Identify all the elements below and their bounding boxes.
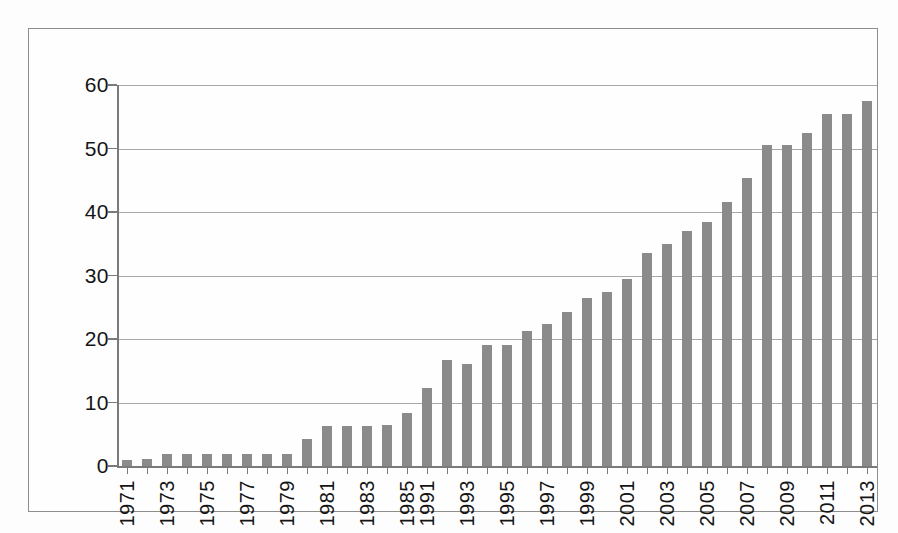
y-tick-label: 60 [85, 73, 109, 97]
bar [542, 324, 552, 466]
y-tick-mark [108, 148, 117, 150]
bar [282, 454, 292, 466]
x-tick-label: 1971 [117, 480, 137, 527]
bar [482, 345, 492, 466]
bar [302, 439, 312, 466]
bar [382, 425, 392, 466]
bar [622, 279, 632, 466]
x-tick-label: 1995 [497, 480, 517, 527]
x-tick-mark [467, 466, 468, 474]
x-tick-label: 2001 [617, 480, 637, 527]
bar [362, 426, 372, 466]
x-tick-mark [587, 466, 588, 474]
x-tick-mark [187, 466, 188, 474]
x-axis-spine [117, 466, 877, 468]
x-tick-label: 2005 [697, 480, 717, 527]
bar [662, 244, 672, 466]
bar-series [117, 85, 877, 466]
x-tick-label: 1973 [157, 480, 177, 527]
bar [182, 454, 192, 466]
x-tick-label: 2009 [777, 480, 797, 527]
bar [222, 454, 232, 466]
y-tick-mark [108, 275, 117, 277]
x-tick-mark [547, 466, 548, 474]
bar [742, 178, 752, 466]
x-tick-label: 1999 [577, 480, 597, 527]
x-tick-mark [867, 466, 868, 474]
y-tick-mark [108, 211, 117, 213]
x-tick-mark [647, 466, 648, 474]
x-tick-mark [827, 466, 828, 474]
bar [162, 454, 172, 466]
x-tick-label: 1983 [357, 480, 377, 527]
x-tick-label: 2011 [817, 480, 837, 525]
bar [602, 292, 612, 466]
x-tick-mark [427, 466, 428, 474]
x-tick-mark [747, 466, 748, 474]
bar [262, 454, 272, 466]
bar [202, 454, 212, 466]
x-tick-mark [407, 466, 408, 474]
x-tick-mark [307, 466, 308, 474]
bar [762, 145, 772, 466]
bar [582, 298, 592, 466]
x-tick-mark [287, 466, 288, 474]
x-tick-mark [387, 466, 388, 474]
x-tick-mark [267, 466, 268, 474]
bar [322, 426, 332, 466]
x-tick-mark [787, 466, 788, 474]
bar [442, 360, 452, 466]
y-tick-mark [108, 84, 117, 86]
y-tick-mark [108, 402, 117, 404]
y-tick-mark [108, 338, 117, 340]
bar [562, 312, 572, 466]
x-tick-mark [247, 466, 248, 474]
x-tick-mark [507, 466, 508, 474]
x-tick-mark [627, 466, 628, 474]
x-tick-mark [207, 466, 208, 474]
x-tick-mark [367, 466, 368, 474]
y-tick-label: 20 [85, 327, 109, 351]
y-tick-label: 10 [85, 391, 109, 415]
x-tick-label: 2013 [857, 480, 877, 527]
y-tick-label: 40 [85, 200, 109, 224]
bar [342, 426, 352, 466]
x-tick-mark [447, 466, 448, 474]
x-tick-mark [807, 466, 808, 474]
x-tick-label: 1991 [417, 480, 437, 527]
bar [642, 253, 652, 466]
x-tick-mark [727, 466, 728, 474]
bar [142, 459, 152, 466]
y-tick-label: 30 [85, 264, 109, 288]
x-tick-label: 1985 [397, 480, 417, 527]
y-tick-label: 50 [85, 137, 109, 161]
x-tick-mark [707, 466, 708, 474]
bar [842, 114, 852, 466]
x-tick-mark [327, 466, 328, 474]
chart-frame: 0102030405060 19711973197519771979198119… [28, 28, 878, 512]
x-tick-mark [227, 466, 228, 474]
y-tick-mark [108, 465, 117, 467]
x-tick-mark [687, 466, 688, 474]
x-tick-label: 1981 [317, 480, 337, 527]
bar [862, 101, 872, 466]
y-tick-label: 0 [97, 454, 109, 478]
x-tick-mark [147, 466, 148, 474]
bar [722, 202, 732, 466]
x-tick-label: 2003 [657, 480, 677, 527]
bar [782, 145, 792, 466]
x-tick-label: 2007 [737, 480, 757, 527]
bar [402, 413, 412, 466]
bar [462, 364, 472, 466]
x-tick-mark [347, 466, 348, 474]
chart-figure: 0102030405060 19711973197519771979198119… [0, 0, 898, 533]
x-tick-label: 1979 [277, 480, 297, 527]
bar [422, 388, 432, 466]
x-tick-mark [567, 466, 568, 474]
x-tick-mark [527, 466, 528, 474]
x-tick-mark [607, 466, 608, 474]
bar [802, 133, 812, 466]
x-tick-label: 1993 [457, 480, 477, 527]
bar [682, 231, 692, 466]
x-tick-mark [487, 466, 488, 474]
